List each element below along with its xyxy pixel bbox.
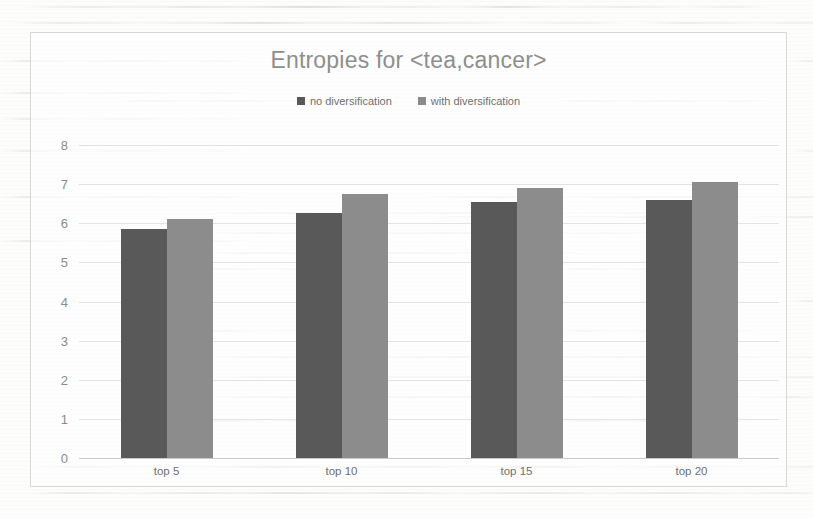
chart-legend: no diversificationwith diversification bbox=[31, 95, 786, 107]
chart-title: Entropies for <tea,cancer> bbox=[31, 47, 786, 74]
bar[interactable] bbox=[692, 182, 738, 458]
bar-group bbox=[471, 145, 563, 458]
ghost-text-line bbox=[470, 6, 770, 8]
plot-area: 012345678 bbox=[79, 145, 779, 458]
bar[interactable] bbox=[471, 202, 517, 458]
bar-group bbox=[296, 145, 388, 458]
y-axis-tick-label: 0 bbox=[61, 451, 68, 466]
bar[interactable] bbox=[296, 213, 342, 458]
bar-group bbox=[121, 145, 213, 458]
x-axis-tick-label: top 20 bbox=[676, 465, 708, 477]
x-axis-tick-label: top 5 bbox=[154, 465, 180, 477]
ghost-text-line bbox=[500, 492, 813, 494]
ghost-text-line bbox=[210, 22, 630, 24]
legend-item-1[interactable]: with diversification bbox=[418, 95, 520, 107]
ghost-text-line bbox=[30, 492, 360, 494]
y-axis-tick-label: 8 bbox=[61, 138, 68, 153]
legend-item-0[interactable]: no diversification bbox=[297, 95, 392, 107]
y-axis-tick-label: 6 bbox=[61, 216, 68, 231]
x-axis-tick-labels: top 5top 10top 15top 20 bbox=[79, 465, 779, 485]
bar[interactable] bbox=[121, 229, 167, 458]
y-axis-tick-label: 5 bbox=[61, 255, 68, 270]
legend-swatch-icon bbox=[418, 97, 426, 105]
ghost-text-line bbox=[640, 22, 813, 24]
ghost-text-line bbox=[10, 22, 440, 24]
bars bbox=[79, 145, 779, 458]
ghost-text-line bbox=[790, 60, 813, 62]
x-axis-tick-label: top 15 bbox=[501, 465, 533, 477]
y-axis-tick-label: 7 bbox=[61, 177, 68, 192]
chart-frame: Entropies for <tea,cancer> no diversific… bbox=[30, 32, 787, 487]
bar[interactable] bbox=[646, 200, 692, 458]
legend-label: no diversification bbox=[310, 95, 392, 107]
scanned-page-background: Entropies for <tea,cancer> no diversific… bbox=[0, 0, 813, 518]
bar[interactable] bbox=[342, 194, 388, 458]
bar-group bbox=[646, 145, 738, 458]
legend-swatch-icon bbox=[297, 97, 305, 105]
y-axis-tick-label: 1 bbox=[61, 411, 68, 426]
bar[interactable] bbox=[167, 219, 213, 458]
y-axis-tick-label: 2 bbox=[61, 372, 68, 387]
y-axis-tick-label: 4 bbox=[61, 294, 68, 309]
x-axis-line: 0 bbox=[79, 458, 779, 459]
ghost-text-line bbox=[240, 492, 540, 494]
bar[interactable] bbox=[517, 188, 563, 458]
ghost-text-line bbox=[150, 6, 450, 8]
ghost-text-line bbox=[790, 300, 813, 302]
x-axis-tick-label: top 10 bbox=[326, 465, 358, 477]
legend-label: with diversification bbox=[431, 95, 520, 107]
y-axis-tick-label: 3 bbox=[61, 333, 68, 348]
ghost-text-line bbox=[18, 6, 578, 8]
ghost-text-line bbox=[792, 150, 813, 152]
